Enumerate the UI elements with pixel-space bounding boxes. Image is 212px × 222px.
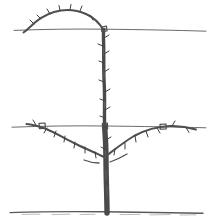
tree-illustration-figure bbox=[0, 0, 212, 222]
tree-illustration-canvas bbox=[0, 0, 212, 222]
